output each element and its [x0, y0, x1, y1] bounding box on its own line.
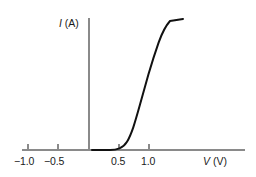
diode-curve — [92, 19, 183, 150]
y-axis-unit: (A) — [62, 17, 79, 29]
x-axis-title: V (V) — [203, 155, 227, 167]
plot-canvas — [0, 0, 256, 177]
x-tick-label-1-0: 1.0 — [141, 155, 155, 167]
diode-iv-characteristic-figure: I (A) V (V) −1.0 −0.5 0.5 1.0 — [0, 0, 256, 177]
y-axis-title: I (A) — [59, 17, 79, 29]
x-axis-symbol: V — [203, 155, 210, 167]
x-tick-label-neg0-5: −0.5 — [44, 155, 64, 167]
x-tick-label-neg1: −1.0 — [14, 155, 34, 167]
x-axis-unit: (V) — [210, 155, 227, 167]
x-tick-label-0-5: 0.5 — [111, 155, 125, 167]
